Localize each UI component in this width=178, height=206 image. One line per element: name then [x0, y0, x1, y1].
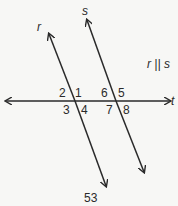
angle-7: 7 — [106, 104, 113, 116]
angle-3: 3 — [63, 104, 70, 116]
line-s-down — [116, 101, 144, 172]
angle-2: 2 — [59, 87, 66, 99]
label-r: r — [37, 21, 41, 33]
diagram-canvas: r s t r || s 2 1 3 4 6 5 7 8 53 — [0, 0, 178, 206]
angle-6: 6 — [101, 87, 108, 99]
label-s: s — [82, 5, 88, 17]
angle-8: 8 — [123, 104, 130, 116]
angle-4: 4 — [81, 104, 88, 116]
angle-1: 1 — [75, 87, 82, 99]
parallel-lines-diagram — [0, 0, 178, 206]
line-r-down — [75, 101, 106, 186]
angle-5: 5 — [118, 87, 125, 99]
caption-number: 53 — [84, 192, 97, 204]
label-t: t — [171, 95, 174, 107]
parallel-relation: r || s — [147, 58, 170, 70]
